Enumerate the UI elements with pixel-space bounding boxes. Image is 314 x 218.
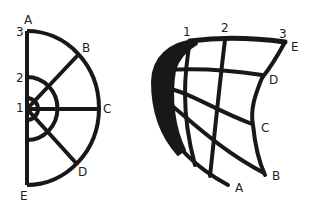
grid-line-D: [165, 69, 262, 75]
right-label-A: A: [235, 182, 243, 194]
grid-top-edge: [190, 38, 285, 42]
right-label-2: 2: [221, 22, 229, 34]
grid-line-C: [165, 88, 252, 124]
left-label-D: D: [78, 166, 87, 178]
grid-col-1: [185, 41, 195, 165]
ray-B: [27, 55, 78, 109]
right-label-E: E: [291, 41, 299, 53]
left-label-3: 3: [16, 26, 24, 38]
right-warped-figure: [152, 38, 285, 185]
left-label-2: 2: [16, 72, 24, 84]
ray-D: [27, 109, 76, 163]
grid-right-edge: [252, 42, 285, 175]
right-label-3: 3: [279, 28, 287, 40]
left-label-1: 1: [16, 102, 24, 114]
right-label-1: 1: [183, 26, 191, 38]
left-label-A: A: [24, 14, 32, 26]
right-label-B: B: [272, 170, 280, 182]
left-label-B: B: [82, 42, 90, 54]
diagram-canvas: [0, 0, 314, 218]
left-label-E: E: [20, 190, 28, 202]
right-label-D: D: [269, 74, 278, 86]
left-label-C: C: [103, 103, 111, 115]
right-label-C: C: [261, 122, 269, 134]
